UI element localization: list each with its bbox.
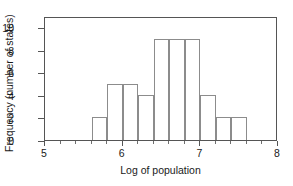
x-tick-label: 6 [102,147,142,159]
histogram-bar [185,39,201,140]
x-tick-mark-minor [246,141,247,144]
x-tick-mark-minor [184,141,185,144]
x-tick-label: 5 [24,147,64,159]
x-tick-mark-minor [215,141,216,144]
x-tick-mark-major [199,141,200,146]
x-axis-title: Log of population [44,164,277,177]
histogram-bar [231,117,247,140]
histogram-bar [138,95,154,140]
y-tick-label: 8 [0,46,14,56]
x-tick-mark-minor [261,141,262,144]
histogram-bar [169,39,185,140]
x-tick-mark-minor [230,141,231,144]
histogram-bar [123,84,139,140]
histogram-bar [154,39,170,140]
x-tick-mark-major [44,141,45,146]
x-tick-mark-minor [168,141,169,144]
histogram-bar [92,117,108,140]
x-tick-label: 8 [257,147,293,159]
x-tick-mark-major [277,141,278,146]
x-tick-mark-minor [137,141,138,144]
plot-area [44,17,277,141]
y-tick-label: 6 [0,68,14,78]
x-tick-mark-minor [153,141,154,144]
y-tick-label: 2 [0,113,14,123]
x-tick-label: 7 [179,147,219,159]
histogram-figure: Frequency (number of states) 0246810 567… [0,0,293,186]
bars-layer [45,18,276,140]
y-tick-label: 4 [0,91,14,101]
y-tick-label: 10 [0,23,14,33]
histogram-bar [107,84,123,140]
x-tick-mark-minor [91,141,92,144]
y-tick-label: 0 [0,136,14,146]
x-tick-mark-minor [60,141,61,144]
x-tick-mark-major [122,141,123,146]
histogram-bar [200,95,216,140]
histogram-bar [216,117,232,140]
x-tick-mark-minor [106,141,107,144]
x-tick-mark-minor [75,141,76,144]
